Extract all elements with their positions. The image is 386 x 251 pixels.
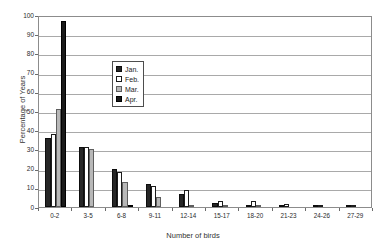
y-tick-label: 20 [12, 166, 34, 173]
y-tick-mark [35, 189, 38, 190]
y-tick-label: 90 [12, 32, 34, 39]
bar-series-container [39, 17, 371, 207]
x-tick-mark [38, 208, 39, 211]
y-tick-mark [35, 112, 38, 113]
y-tick-mark [35, 93, 38, 94]
bar-apr-6-8 [128, 205, 133, 207]
y-tick-mark [35, 54, 38, 55]
y-tick-mark [35, 131, 38, 132]
y-tick-mark [35, 35, 38, 36]
y-tick-label: 30 [12, 147, 34, 154]
x-axis-title: Number of birds [0, 231, 386, 240]
x-tick-mark [205, 208, 206, 211]
x-tick-mark [305, 208, 306, 211]
legend-item: Apr. [116, 94, 139, 104]
legend-label: Feb. [125, 76, 139, 83]
bar-mar-18-20 [256, 205, 261, 207]
x-tick-mark [272, 208, 273, 211]
bar-mar-12-14 [189, 205, 194, 207]
bar-group [45, 17, 66, 207]
x-tick-label: 9-11 [138, 212, 171, 219]
bar-mar-15-17 [223, 205, 228, 207]
bar-mar-9-11 [156, 197, 161, 207]
legend-label: Jan. [125, 66, 138, 73]
bar-group [112, 17, 133, 207]
x-tick-label: 3-5 [71, 212, 104, 219]
x-tick-mark [339, 208, 340, 211]
bar-group [246, 17, 267, 207]
x-tick-label: 6-8 [105, 212, 138, 219]
legend-swatch-icon [116, 96, 122, 102]
x-tick-label: 0-2 [38, 212, 71, 219]
legend-swatch-icon [116, 86, 122, 92]
y-tick-label: 70 [12, 70, 34, 77]
bar-feb-21-23 [284, 204, 289, 207]
x-tick-mark [372, 208, 373, 211]
y-tick-mark [35, 16, 38, 17]
x-tick-mark [138, 208, 139, 211]
x-tick-label: 24-26 [305, 212, 338, 219]
y-tick-mark [35, 170, 38, 171]
y-tick-label: 60 [12, 89, 34, 96]
legend-label: Apr. [125, 96, 137, 103]
bar-group [313, 17, 334, 207]
y-tick-label: 40 [12, 128, 34, 135]
x-tick-label: 21-23 [272, 212, 305, 219]
y-tick-label: 50 [12, 109, 34, 116]
x-tick-label: 15-17 [205, 212, 238, 219]
bar-group [346, 17, 367, 207]
y-tick-label: 0 [12, 205, 34, 212]
bar-group [179, 17, 200, 207]
bar-feb-24-26 [318, 205, 323, 207]
legend-item: Feb. [116, 74, 139, 84]
bar-mar-3-5 [89, 149, 94, 207]
x-tick-label: 12-14 [172, 212, 205, 219]
plot-area [38, 16, 372, 208]
x-tick-mark [105, 208, 106, 211]
y-tick-mark [35, 150, 38, 151]
x-tick-mark [172, 208, 173, 211]
legend-swatch-icon [116, 76, 122, 82]
y-tick-label: 10 [12, 185, 34, 192]
bar-apr-0-2 [61, 21, 66, 207]
y-tick-mark [35, 74, 38, 75]
bar-group [146, 17, 167, 207]
bar-chart: Percentage of Years 01020304050607080901… [0, 0, 386, 251]
y-tick-label: 100 [12, 13, 34, 20]
legend-item: Mar. [116, 84, 139, 94]
bar-mar-6-8 [122, 182, 127, 207]
bar-group [79, 17, 100, 207]
legend-item: Jan. [116, 64, 139, 74]
bar-group [212, 17, 233, 207]
legend-label: Mar. [125, 86, 139, 93]
x-tick-label: 27-29 [339, 212, 372, 219]
x-tick-mark [71, 208, 72, 211]
bar-group [279, 17, 300, 207]
chart-legend: Jan.Feb.Mar.Apr. [112, 61, 144, 107]
legend-swatch-icon [116, 66, 122, 72]
x-tick-mark [238, 208, 239, 211]
bar-feb-27-29 [351, 205, 356, 207]
x-tick-label: 18-20 [238, 212, 271, 219]
y-tick-label: 80 [12, 51, 34, 58]
